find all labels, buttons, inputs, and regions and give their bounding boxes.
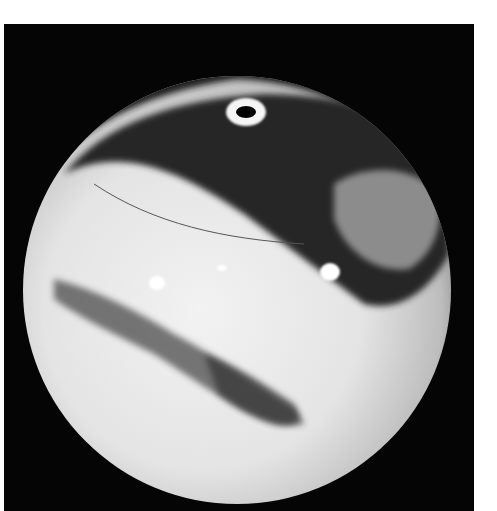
photo-frame xyxy=(4,24,474,511)
highlight xyxy=(149,276,165,290)
sphere-photo xyxy=(4,24,474,511)
pole-hole xyxy=(236,106,256,118)
highlight xyxy=(217,265,227,271)
highlight xyxy=(320,263,340,281)
